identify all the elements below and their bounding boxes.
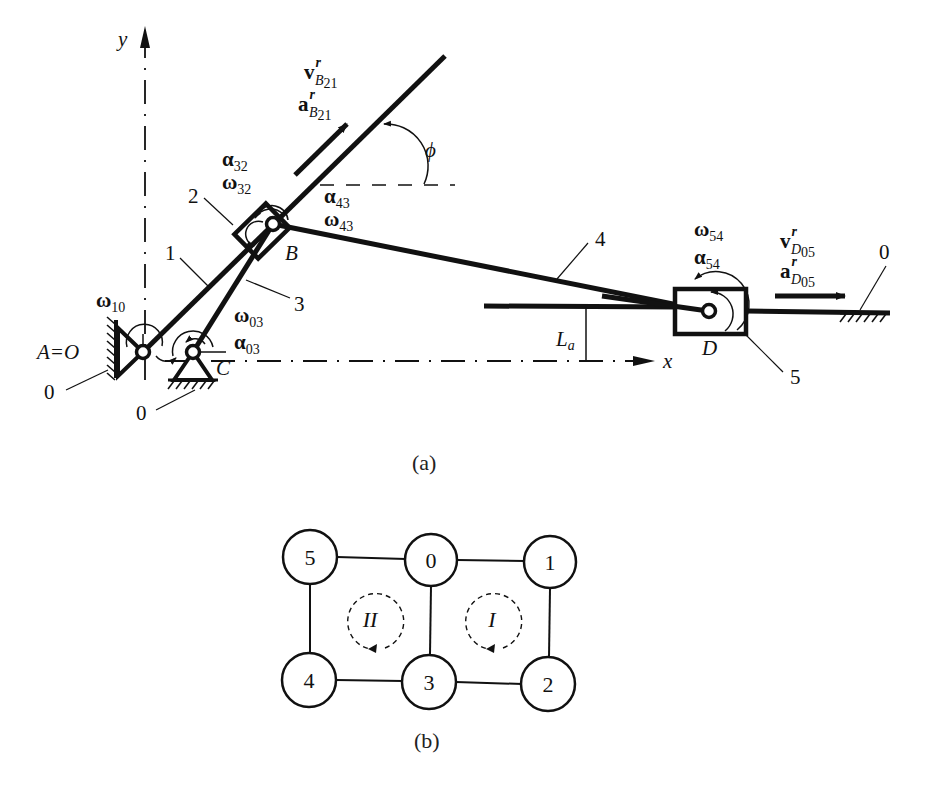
slider-guide-left [484,306,678,307]
point-d-label: D [701,336,717,360]
link-label-5: 5 [790,365,801,389]
graph-node-4: 4 [282,653,336,707]
joint-c-icon [187,346,200,359]
loop-ii: II [348,594,404,653]
svg-text:1: 1 [545,550,556,575]
aB21-label: arB21 [298,87,332,123]
ground-right-icon [840,313,890,322]
leader-2 [204,198,233,225]
alpha03-label: α03 [234,330,260,357]
figure-a: y x [35,26,890,475]
leader-0a [66,370,108,390]
omega43-label: ω43 [324,207,353,234]
leader-4 [557,243,588,279]
loop-i-arrow-icon [486,644,495,653]
svg-text:5: 5 [305,545,316,570]
joint-d-icon [703,305,716,318]
y-axis-label: y [116,27,128,51]
point-c-label: C [216,356,231,380]
omega54-label: ω54 [694,217,723,244]
svg-text:3: 3 [424,670,435,695]
link-label-1: 1 [165,241,176,265]
alpha54-label: α54 [694,245,720,272]
omega10-label: ω10 [96,288,125,315]
link-label-0c: 0 [879,240,890,264]
vD05-label: vrD05 [780,224,815,260]
edge-0-3 [430,586,431,654]
loop-ii-arrow-icon [368,644,377,653]
link-label-0a: 0 [44,380,55,404]
svg-text:I: I [487,607,497,632]
x-axis-arrow-icon [633,356,655,366]
leader-0b [156,390,195,410]
link-4-rod [273,224,708,311]
graph-node-1: 1 [524,536,576,588]
leader-5 [745,334,783,372]
svg-text:4: 4 [304,668,315,693]
edge-0-1 [457,560,525,561]
caption-b: (b) [414,728,440,753]
graph-node-3: 3 [402,655,456,709]
figure-b-graph: 5 0 1 4 3 2 II I [282,530,576,753]
joint-b-icon [267,218,280,231]
leader-3 [246,280,290,298]
loop-i: I [466,594,522,653]
edge-5-0 [337,557,406,559]
origin-label: A=O [35,340,79,364]
edge-3-2 [456,682,522,684]
graph-node-0: 0 [405,534,457,586]
edge-4-3 [336,680,403,681]
joint-a-icon [137,346,150,359]
svg-text:2: 2 [543,672,554,697]
link-label-4: 4 [595,227,606,251]
point-b-label: B [285,241,298,265]
caption-a: (a) [412,450,436,475]
leader-1 [180,258,208,286]
angle-phi-label: ϕ [425,138,436,162]
phi-arc-icon [384,124,428,184]
la-label: La [555,327,575,353]
mechanism-figure: y x [0,0,926,812]
graph-node-5: 5 [283,530,337,584]
omega32-label: ω32 [222,170,251,197]
x-axis-label: x [662,349,673,373]
graph-node-2: 2 [521,657,575,711]
y-axis-arrow-icon [140,26,150,48]
y-axis: y [116,26,150,380]
leader-0c [860,266,886,310]
link-label-0b: 0 [136,401,147,425]
link-label-2: 2 [188,184,199,208]
vB21-arrow-icon [295,124,347,175]
vB21-label: vrB21 [304,55,338,91]
svg-text:0: 0 [426,548,437,573]
link-label-3: 3 [294,292,305,316]
omega03-label: ω03 [234,303,263,330]
edge-1-2 [549,589,550,657]
svg-text:II: II [362,607,379,632]
